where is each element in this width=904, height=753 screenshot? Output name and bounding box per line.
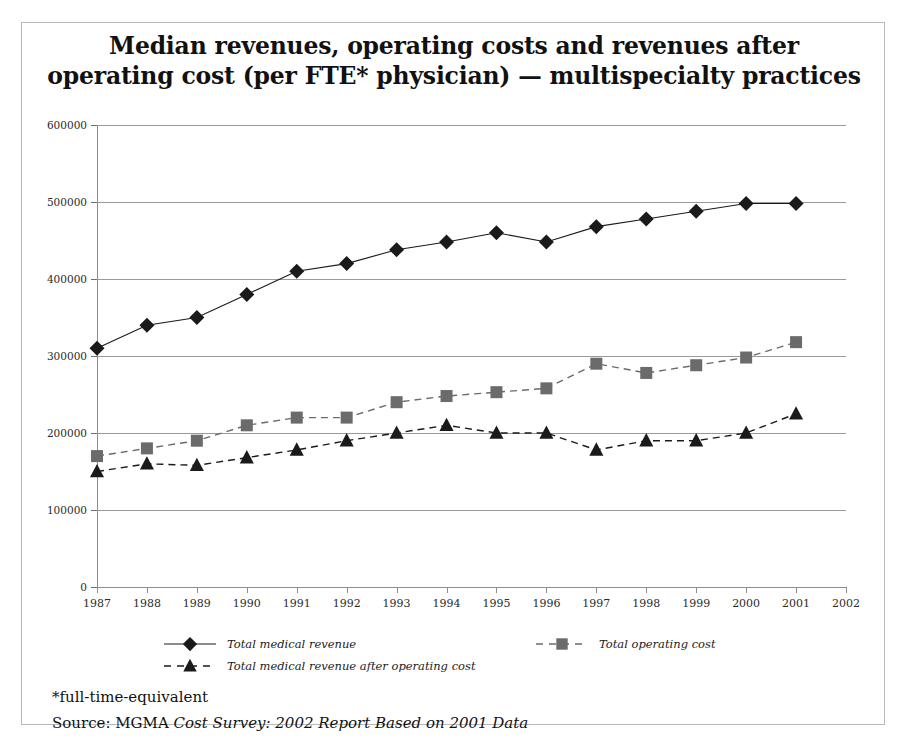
x-axis-label-2000: 2000 [732, 597, 760, 610]
data-point-diamond-1989 [189, 310, 204, 325]
y-axis-label-400000: 400000 [47, 273, 87, 285]
y-axis-label-600000: 600000 [47, 119, 87, 131]
legend-marker-diamond-icon [162, 635, 218, 653]
x-axis-label-1996: 1996 [532, 597, 560, 610]
data-point-square-1990 [241, 419, 253, 431]
x-tick-mark-1998 [646, 587, 647, 593]
y-axis-label-300000: 300000 [47, 350, 87, 362]
x-axis-label-1992: 1992 [333, 597, 361, 610]
series-layer [97, 125, 846, 587]
plot-area: 6000005000004000003000002000001000000 19… [97, 125, 846, 587]
data-point-square-1999 [690, 359, 702, 371]
x-axis-label-1994: 1994 [433, 597, 461, 610]
data-point-triangle-2001 [789, 406, 803, 419]
x-axis-label-1998: 1998 [632, 597, 660, 610]
x-tick-mark-1997 [596, 587, 597, 593]
data-point-square-1987 [91, 450, 103, 462]
x-tick-mark-1989 [197, 587, 198, 593]
y-axis-label-500000: 500000 [47, 196, 87, 208]
data-point-diamond-1996 [539, 235, 554, 250]
x-tick-mark-2000 [746, 587, 747, 593]
legend-label-3: Total medical revenue after operating co… [227, 659, 476, 673]
x-axis-label-2002: 2002 [832, 597, 860, 610]
x-axis-label-1987: 1987 [83, 597, 111, 610]
x-tick-mark-2002 [846, 587, 847, 593]
x-tick-mark-1993 [397, 587, 398, 593]
y-axis-label-200000: 200000 [47, 427, 87, 439]
data-point-diamond-1992 [339, 256, 354, 271]
gridline-0 [97, 587, 846, 588]
chart-title-line-2: operating cost (per FTE* physician) — mu… [36, 61, 872, 91]
data-point-square-2001 [790, 336, 802, 348]
chart-title-line-1: Median revenues, operating costs and rev… [36, 31, 872, 61]
data-point-square-1998 [640, 367, 652, 379]
series-line-1 [97, 204, 796, 349]
x-tick-mark-1991 [297, 587, 298, 593]
y-axis-label-100000: 100000 [47, 504, 87, 516]
x-tick-mark-1990 [247, 587, 248, 593]
legend-label-2: Total operating cost [599, 637, 716, 651]
data-point-diamond-1998 [639, 211, 654, 226]
data-point-triangle-1994 [439, 418, 453, 431]
x-axis-label-1988: 1988 [133, 597, 161, 610]
x-tick-mark-2001 [796, 587, 797, 593]
data-point-diamond-1987 [90, 341, 105, 356]
data-point-square-1993 [391, 396, 403, 408]
x-tick-mark-1996 [546, 587, 547, 593]
x-axis-label-1991: 1991 [283, 597, 311, 610]
x-axis-label-1997: 1997 [582, 597, 610, 610]
data-point-triangle-1998 [639, 433, 653, 446]
x-tick-mark-1992 [347, 587, 348, 593]
chart-figure: Median revenues, operating costs and rev… [21, 22, 885, 725]
source-prefix: Source: MGMA [52, 714, 174, 732]
x-tick-mark-1994 [447, 587, 448, 593]
data-point-square-1996 [540, 382, 552, 394]
legend-item-3[interactable]: Total medical revenue after operating co… [162, 657, 476, 675]
x-tick-mark-1995 [496, 587, 497, 593]
data-point-square-1992 [341, 412, 353, 424]
legend-item-1[interactable]: Total medical revenue [162, 635, 356, 653]
data-point-triangle-1996 [539, 425, 553, 438]
data-point-diamond-1994 [439, 235, 454, 250]
legend-item-2[interactable]: Total operating cost [534, 635, 716, 653]
data-point-diamond-1995 [489, 225, 504, 240]
x-tick-mark-1987 [97, 587, 98, 593]
data-point-diamond-1990 [239, 287, 254, 302]
x-axis-label-1999: 1999 [682, 597, 710, 610]
series-1 [90, 196, 804, 356]
data-point-square-2000 [740, 352, 752, 364]
footnote-text: *full-time-equivalent [52, 684, 528, 710]
x-axis-label-2001: 2001 [782, 597, 810, 610]
data-point-triangle-2000 [739, 425, 753, 438]
data-point-diamond-2001 [789, 196, 804, 211]
data-point-diamond-1999 [689, 204, 704, 219]
x-axis-label-1995: 1995 [482, 597, 510, 610]
plot: 6000005000004000003000002000001000000 19… [76, 103, 886, 603]
legend-marker-triangle-icon [162, 657, 218, 675]
data-point-diamond-1993 [389, 242, 404, 257]
data-point-square-1991 [291, 412, 303, 424]
data-point-triangle-1988 [140, 456, 154, 469]
x-axis-label-1990: 1990 [233, 597, 261, 610]
source-text: Source: MGMA Cost Survey: 2002 Report Ba… [52, 710, 528, 736]
data-point-square-1997 [590, 358, 602, 370]
x-axis-label-1993: 1993 [383, 597, 411, 610]
data-point-triangle-1993 [390, 425, 404, 438]
x-tick-mark-1988 [147, 587, 148, 593]
legend-marker-square-icon [534, 635, 590, 653]
chart-legend: Total medical revenueTotal operating cos… [162, 635, 862, 683]
data-point-square-1989 [191, 435, 203, 447]
data-point-diamond-1988 [139, 318, 154, 333]
legend-label-1: Total medical revenue [227, 637, 356, 651]
data-point-square-1988 [141, 442, 153, 454]
source-title: Cost Survey: 2002 Report Based on 2001 D… [174, 714, 529, 732]
data-point-square-1995 [490, 386, 502, 398]
data-point-square-1994 [441, 390, 453, 402]
data-point-triangle-1997 [589, 442, 603, 455]
data-point-triangle-1989 [190, 458, 204, 471]
x-axis-label-1989: 1989 [183, 597, 211, 610]
data-point-diamond-1991 [289, 264, 304, 279]
data-point-diamond-2000 [739, 196, 754, 211]
x-tick-mark-1999 [696, 587, 697, 593]
chart-title: Median revenues, operating costs and rev… [36, 31, 872, 91]
